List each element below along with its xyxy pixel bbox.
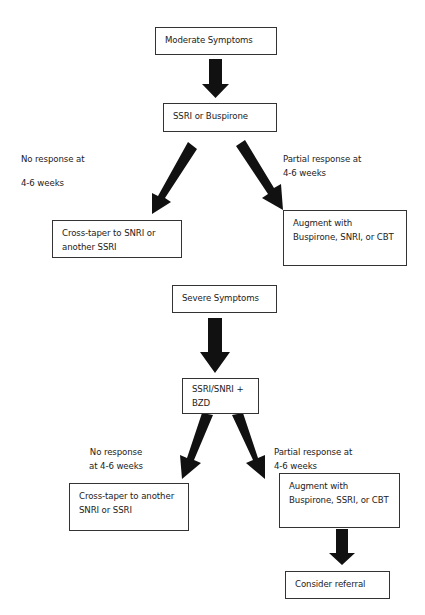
ssri-or-buspirone-text: SSRI or Buspirone <box>173 111 248 121</box>
moderate-no-response-label-weeks: 4-6 weeks <box>21 176 64 190</box>
severe-cross-taper-box: Cross-taper to another SNRI or SSRI <box>69 483 189 531</box>
severe-symptoms-box: Severe Symptoms <box>172 285 277 313</box>
arrow-down-right-icon <box>232 413 265 479</box>
ssri-or-buspirone-box: SSRI or Buspirone <box>163 103 277 132</box>
moderate-augment-box: Augment with Buspirone, SNRI, or CBT <box>283 210 407 266</box>
moderate-no-response-label: No response at <box>21 152 84 166</box>
arrow-down-left-icon <box>152 142 197 214</box>
severe-partial-response-label: Partial response at 4-6 weeks <box>274 445 352 473</box>
moderate-partial-response-label: Partial response at 4-6 weeks <box>283 152 361 180</box>
arrow-down-icon <box>200 318 230 373</box>
severe-augment-box: Augment with Buspirone, SSRI, or CBT <box>279 473 400 528</box>
arrow-down-right-icon <box>236 140 283 210</box>
arrow-down-icon <box>329 529 355 565</box>
consider-referral-box: Consider referral <box>285 571 390 599</box>
ssri-snri-bzd-box: SSRI/SNRI + BZD <box>182 378 259 414</box>
arrow-down-left-icon <box>180 413 213 479</box>
arrow-down-icon <box>202 59 229 98</box>
severe-symptoms-text: Severe Symptoms <box>182 293 259 303</box>
moderate-symptoms-box: Moderate Symptoms <box>155 27 277 55</box>
moderate-symptoms-text: Moderate Symptoms <box>165 35 253 45</box>
severe-no-response-label: No response at 4-6 weeks <box>89 445 143 473</box>
consider-referral-text: Consider referral <box>295 579 365 589</box>
moderate-cross-taper-box: Cross-taper to SNRI or another SSRI <box>52 220 182 258</box>
